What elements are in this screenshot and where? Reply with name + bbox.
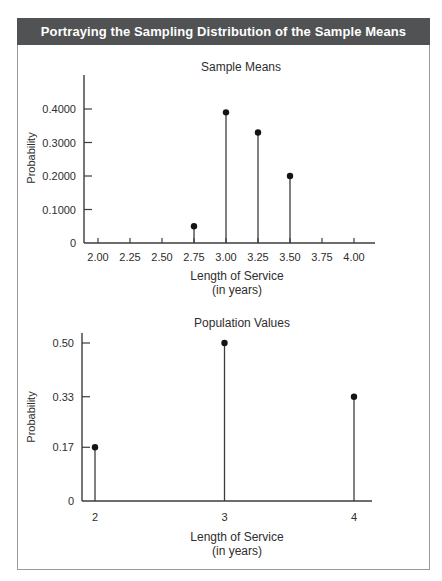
population-values-x-tick-label: 2 [92,511,98,523]
top-chart-title: Sample Means [41,60,441,74]
sample-means-x-tick-label: 3.75 [311,251,332,263]
sample-means-x-tick-label: 3.25 [247,251,268,263]
sample-means-x-tick-label: 2.00 [87,251,108,263]
population-values-y-tick-label: 0.33 [53,391,74,403]
population-values-y-tick-label: 0.50 [53,337,74,349]
sample-means-x-tick-label: 3.50 [279,251,300,263]
top-x-axis-title: Length of Service [37,269,437,283]
population-values-data-point-dot [92,444,98,450]
bottom-chart-title: Population Values [42,316,442,330]
population-values-y-tick-label: 0 [68,495,74,507]
population-values-data-point-dot [351,394,357,400]
bottom-x-axis-title: Length of Service [37,530,437,544]
sample-means-x-tick-label: 2.25 [119,251,140,263]
population-values-x-tick-label: 4 [351,511,357,523]
top-y-axis-title: Probability [25,98,39,218]
sample-means-data-point-dot [191,223,197,229]
sample-means-y-tick-label: 0.1000 [42,204,76,216]
bottom-x-axis-subtitle: (in years) [37,544,437,558]
sample-means-x-tick-label: 2.50 [151,251,172,263]
sample-means-y-tick-label: 0.2000 [42,170,76,182]
top-x-axis-subtitle: (in years) [37,283,437,297]
sample-means-y-tick-label: 0.4000 [42,103,76,115]
population-values-x-tick-label: 3 [221,511,227,523]
sample-means-data-point-dot [255,129,261,135]
population-values-data-point-dot [221,340,227,346]
sample-means-y-tick-label: 0.3000 [42,137,76,149]
sample-means-x-tick-label: 4.00 [343,251,364,263]
sample-means-x-tick-label: 2.75 [183,251,204,263]
sample-means-y-tick-label: 0 [70,237,76,249]
population-values-y-tick-label: 0.17 [53,441,74,453]
sample-means-data-point-dot [287,173,293,179]
figure-page: Portraying the Sampling Distribution of … [0,0,442,581]
sample-means-x-tick-label: 3.00 [215,251,236,263]
bottom-y-axis-title: Probability [25,357,39,477]
sample-means-data-point-dot [223,109,229,115]
